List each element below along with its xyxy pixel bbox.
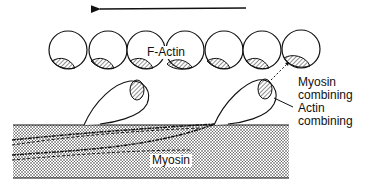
actin-monomer (282, 30, 320, 68)
actin-combining-label-line2: combining (298, 115, 353, 128)
actin-monomer (243, 31, 281, 69)
f-actin-label: F-Actin (146, 46, 186, 59)
myosin-filament (12, 124, 289, 178)
myosin-head-right (214, 79, 293, 125)
myosin-head-left (84, 80, 149, 125)
direction-arrow-icon (100, 8, 246, 9)
myosin-label: Myosin (150, 154, 192, 167)
actin-monomer (205, 31, 243, 69)
actin-monomer (89, 31, 127, 69)
actin-monomer (49, 31, 87, 69)
